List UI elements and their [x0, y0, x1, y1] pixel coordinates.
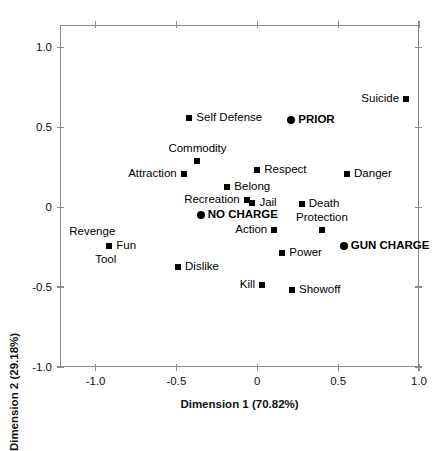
x-tick-bottom	[338, 364, 339, 371]
point-label: Respect	[264, 164, 306, 176]
point-label: Self Defense	[196, 112, 262, 124]
point-label: Jail	[259, 197, 276, 209]
x-tick-label: 0	[254, 375, 260, 387]
y-tick-right	[415, 47, 422, 48]
circle-marker-icon	[340, 242, 348, 250]
y-tick-label: 1.0	[28, 41, 52, 53]
square-marker-icon	[254, 167, 260, 173]
point-label: Death	[309, 198, 340, 210]
x-tick-top	[176, 21, 177, 28]
square-marker-icon	[271, 227, 277, 233]
x-tick-label: -1.0	[86, 375, 106, 387]
point-label: Tool	[95, 255, 116, 267]
square-marker-icon	[249, 200, 255, 206]
y-tick-right	[415, 286, 422, 287]
square-marker-icon	[106, 243, 112, 249]
point-label: Suicide	[361, 93, 399, 105]
x-tick-label: 0.5	[330, 375, 346, 387]
point-label: Power	[289, 247, 322, 259]
point-label: Fun	[116, 241, 136, 253]
x-tick-bottom	[176, 364, 177, 371]
point-label: Recreation	[184, 194, 240, 206]
x-tick-top	[418, 21, 419, 28]
y-tick-label: -1.0	[28, 361, 52, 373]
y-tick-label: 0.5	[28, 121, 52, 133]
y-tick-right	[415, 366, 422, 367]
square-marker-icon	[224, 184, 230, 190]
point-label: Protection	[296, 212, 348, 224]
square-marker-icon	[186, 115, 192, 121]
y-axis-title: Dimension 2 (29.18%)	[8, 333, 20, 451]
point-label: Attraction	[128, 168, 177, 180]
square-marker-icon	[289, 287, 295, 293]
point-label: Commodity	[168, 142, 226, 154]
circle-marker-icon	[287, 116, 295, 124]
x-tick-top	[95, 21, 96, 28]
y-tick-right	[415, 127, 422, 128]
square-marker-icon	[403, 96, 409, 102]
y-tick-left	[57, 286, 64, 287]
point-label: Kill	[240, 280, 255, 292]
point-label: NO CHARGE	[208, 209, 278, 221]
y-tick-right	[415, 207, 422, 208]
point-label: Danger	[354, 169, 392, 181]
point-label: Revenge	[69, 227, 115, 239]
x-tick-bottom	[95, 364, 96, 371]
square-marker-icon	[299, 201, 305, 207]
y-tick-label: -0.5	[28, 281, 52, 293]
y-tick-left	[57, 207, 64, 208]
point-label: Action	[235, 225, 267, 237]
y-tick-left	[57, 47, 64, 48]
y-tick-left	[57, 366, 64, 367]
square-marker-icon	[319, 227, 325, 233]
x-tick-bottom	[257, 364, 258, 371]
point-label: Showoff	[299, 285, 340, 297]
point-label: PRIOR	[298, 114, 334, 126]
square-marker-icon	[194, 158, 200, 164]
point-label: GUN CHARGE	[351, 240, 430, 252]
point-label: Belong	[234, 181, 270, 193]
x-tick-top	[257, 21, 258, 28]
x-tick-top	[338, 21, 339, 28]
circle-marker-icon	[197, 211, 205, 219]
x-tick-label: 1.0	[411, 375, 427, 387]
square-marker-icon	[279, 250, 285, 256]
point-label: Dislike	[185, 261, 219, 273]
square-marker-icon	[181, 171, 187, 177]
y-tick-left	[57, 127, 64, 128]
square-marker-icon	[259, 282, 265, 288]
y-tick-label: 0	[28, 201, 52, 213]
square-marker-icon	[175, 264, 181, 270]
square-marker-icon	[344, 171, 350, 177]
x-axis-title: Dimension 1 (70.82%)	[60, 398, 419, 410]
x-tick-label: -0.5	[167, 375, 187, 387]
